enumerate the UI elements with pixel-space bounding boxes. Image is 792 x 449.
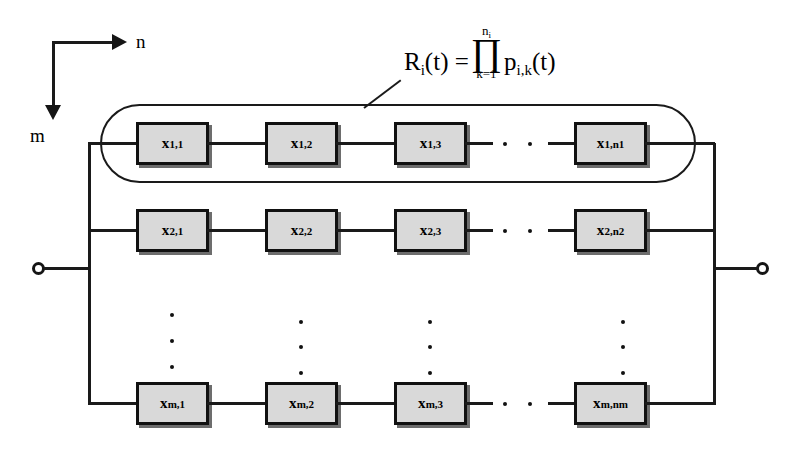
formula-rhs-subscript: i,k bbox=[517, 62, 532, 78]
axis-n-label: n bbox=[136, 31, 146, 53]
input-bus bbox=[88, 143, 91, 405]
block-label: x bbox=[593, 395, 601, 412]
block-subscript: 2,1 bbox=[170, 225, 184, 237]
row-m-link-2 bbox=[336, 402, 396, 405]
row-2-link-2 bbox=[336, 229, 396, 232]
block-x-2-1: x2,1 bbox=[136, 209, 209, 252]
block-label: x bbox=[291, 135, 299, 152]
product-operator: ni∏k=1 bbox=[471, 24, 502, 82]
row-2-link-3b bbox=[548, 229, 576, 232]
row-1-ellipsis-dot-2 bbox=[528, 142, 532, 146]
row-m-link-3b bbox=[548, 402, 576, 405]
column-3-vertical-ellipsis-dot-2 bbox=[428, 345, 432, 349]
block-x-2-n2: x2,n2 bbox=[574, 209, 647, 252]
block-x-m-3: xm,3 bbox=[394, 382, 467, 425]
block-label: x bbox=[289, 395, 297, 412]
block-subscript: 1,2 bbox=[299, 138, 313, 150]
block-x-1-3: x1,3 bbox=[394, 122, 467, 165]
block-x-1-n1: x1,n1 bbox=[574, 122, 647, 165]
column-1-vertical-ellipsis-dot-1 bbox=[170, 313, 174, 317]
column-3-vertical-ellipsis-dot-3 bbox=[428, 371, 432, 375]
column-2-vertical-ellipsis-dot-1 bbox=[299, 320, 303, 324]
row-2-input-lead bbox=[88, 229, 138, 232]
row-1-input-lead bbox=[88, 142, 138, 145]
row-m-ellipsis-dot-1 bbox=[503, 402, 507, 406]
row-m-input-lead bbox=[88, 402, 138, 405]
column-4-vertical-ellipsis-dot-2 bbox=[621, 345, 625, 349]
reliability-formula: Ri(t) =ni∏k=1pi,k(t) bbox=[404, 24, 556, 82]
block-x-m-2: xm,2 bbox=[265, 382, 338, 425]
row-m-link-3a bbox=[465, 402, 493, 405]
row-2-ellipsis-dot-2 bbox=[528, 229, 532, 233]
block-subscript: m,nm bbox=[601, 398, 628, 410]
block-subscript: 1,1 bbox=[170, 138, 184, 150]
formula-rhs: p bbox=[504, 48, 517, 75]
row-m-output-lead bbox=[645, 402, 715, 405]
block-label: x bbox=[291, 222, 299, 239]
block-label: x bbox=[160, 395, 168, 412]
column-4-vertical-ellipsis-dot-1 bbox=[621, 320, 625, 324]
column-4-vertical-ellipsis-dot-3 bbox=[621, 371, 625, 375]
row-2-output-lead bbox=[645, 229, 715, 232]
block-x-2-3: x2,3 bbox=[394, 209, 467, 252]
block-subscript: 2,n2 bbox=[604, 225, 624, 237]
block-x-1-1: x1,1 bbox=[136, 122, 209, 165]
diagram-canvas: n m Ri(t) =ni∏k=1pi,k(t) x1,1 x1,2 x1,3 … bbox=[0, 0, 792, 449]
row-1-link-3b bbox=[548, 142, 576, 145]
row-1-link-3a bbox=[465, 142, 493, 145]
block-label: x bbox=[420, 222, 428, 239]
block-x-m-1: xm,1 bbox=[136, 382, 209, 425]
row-2-link-3a bbox=[465, 229, 493, 232]
block-subscript: m,2 bbox=[297, 398, 314, 410]
block-label: x bbox=[597, 135, 605, 152]
block-label: x bbox=[597, 222, 605, 239]
block-subscript: m,3 bbox=[426, 398, 443, 410]
block-label: x bbox=[162, 135, 170, 152]
column-2-vertical-ellipsis-dot-2 bbox=[299, 345, 303, 349]
axis-m-arrowhead bbox=[45, 105, 61, 120]
block-subscript: 1,n1 bbox=[604, 138, 624, 150]
formula-rhs-arg: (t) bbox=[532, 48, 556, 75]
column-2-vertical-ellipsis-dot-3 bbox=[299, 371, 303, 375]
column-1-vertical-ellipsis-dot-2 bbox=[170, 339, 174, 343]
axis-n-arrowhead bbox=[112, 34, 127, 50]
row-m-link-1 bbox=[207, 402, 267, 405]
axis-m-label: m bbox=[30, 125, 45, 147]
block-x-m-nm: xm,nm bbox=[574, 382, 647, 425]
axis-m-line bbox=[52, 41, 55, 107]
output-bus bbox=[713, 143, 716, 405]
column-1-vertical-ellipsis-dot-3 bbox=[170, 365, 174, 369]
row-m-ellipsis-dot-2 bbox=[528, 402, 532, 406]
column-3-vertical-ellipsis-dot-1 bbox=[428, 320, 432, 324]
row-1-link-1 bbox=[207, 142, 267, 145]
formula-lhs: R bbox=[404, 48, 421, 75]
block-subscript: 2,2 bbox=[299, 225, 313, 237]
block-subscript: m,1 bbox=[168, 398, 185, 410]
block-subscript: 1,3 bbox=[428, 138, 442, 150]
block-x-2-2: x2,2 bbox=[265, 209, 338, 252]
axis-n-line bbox=[52, 41, 114, 44]
product-symbol: ∏ bbox=[471, 38, 502, 68]
block-label: x bbox=[162, 222, 170, 239]
formula-equals: (t) = bbox=[425, 48, 469, 75]
input-terminal-lead bbox=[44, 267, 90, 270]
row-2-link-1 bbox=[207, 229, 267, 232]
row-1-ellipsis-dot-1 bbox=[503, 142, 507, 146]
output-terminal-lead bbox=[713, 267, 759, 270]
block-label: x bbox=[420, 135, 428, 152]
block-label: x bbox=[418, 395, 426, 412]
row-1-link-2 bbox=[336, 142, 396, 145]
block-x-1-2: x1,2 bbox=[265, 122, 338, 165]
block-subscript: 2,3 bbox=[428, 225, 442, 237]
row-2-ellipsis-dot-1 bbox=[503, 229, 507, 233]
row-1-output-lead bbox=[645, 142, 715, 145]
